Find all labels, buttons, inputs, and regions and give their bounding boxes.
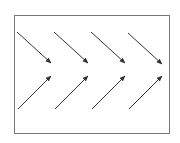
down-right-arrow-icon	[54, 32, 88, 63]
up-right-arrow-icon	[129, 76, 162, 109]
down-right-arrow-icon	[17, 32, 51, 63]
down-right-arrow-icon	[91, 32, 125, 63]
up-right-arrow-icon	[92, 76, 125, 109]
up-right-arrow-icon	[55, 76, 88, 109]
up-right-arrow-icon	[18, 76, 51, 109]
arrow-field-diagram	[0, 0, 180, 143]
down-right-arrow-icon	[128, 33, 162, 64]
arrows-group	[17, 32, 162, 109]
